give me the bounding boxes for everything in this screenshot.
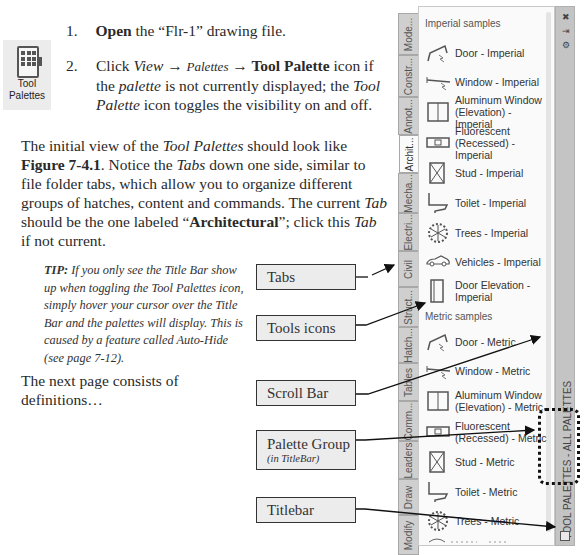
tool-aluminum-window-metric[interactable]: Aluminum Window (Elevation) - Metric (425, 386, 547, 416)
tool-window-metric[interactable]: Window - Metric (425, 356, 547, 386)
tool-door-imperial[interactable]: Door - Imperial (425, 38, 547, 68)
tool-stud-imperial[interactable]: Stud - Imperial (425, 158, 547, 188)
tip-label: TIP: (44, 263, 68, 277)
step-number: 2. (66, 56, 78, 75)
tool-toilet-imperial[interactable]: Toilet - Imperial (425, 188, 547, 218)
text: icon toggles the visibility on and off. (140, 96, 372, 113)
callout-palette-group: Palette Group(in TitleBar) (256, 430, 356, 470)
section-title: Metric samples (425, 311, 492, 322)
callout-tabs: Tabs (256, 264, 356, 290)
window-icon (425, 359, 452, 383)
close-icon[interactable]: ✖ (560, 12, 571, 22)
tool-palettes-label: ToolPalettes (3, 78, 51, 102)
callout-tools-icons: Tools icons (256, 315, 356, 341)
tab-constraints[interactable]: Constr... (398, 55, 419, 97)
tool-door-elevation-imperial[interactable]: Door Elevation - Imperial (425, 276, 547, 306)
trees-icon (425, 509, 452, 533)
tab-tables[interactable]: Tables (398, 363, 419, 401)
door-elevation-icon (425, 279, 452, 303)
tab-structural[interactable]: Struct... (398, 287, 419, 327)
tab-modeling[interactable]: Mode... (398, 13, 419, 55)
aluminum-window-icon (425, 389, 452, 413)
tip-note: TIP: If you only see the Title Bar show … (44, 262, 246, 367)
step-number: 1. (66, 22, 78, 39)
intro-paragraph: The initial view of the Tool Palettes sh… (21, 136, 389, 250)
tab-mechanical[interactable]: Mecha... (398, 173, 419, 213)
tab-command[interactable]: Comm... (398, 401, 419, 441)
tab-draw[interactable]: Draw (398, 479, 419, 515)
step-1: 1. Open the “Flr-1” drawing file. (66, 21, 386, 40)
tool-palettes-button[interactable]: ToolPalettes (3, 40, 51, 110)
tool-stud-metric[interactable]: Stud - Metric (425, 447, 547, 477)
aluminum-window-icon (425, 100, 452, 124)
tool-fluorescent-metric[interactable]: Fluorescent (Recessed) - Metric (425, 417, 547, 447)
tool-door-metric[interactable]: Door - Metric (425, 327, 547, 357)
tool-palettes-icon (17, 46, 39, 78)
palette-group-highlight (538, 408, 580, 485)
arrow: → (163, 57, 186, 74)
tab-architectural[interactable]: Archit... (399, 135, 420, 173)
menu-view: View (133, 57, 163, 74)
step-text: Click View → Palettes → Tool Palette ico… (96, 56, 386, 114)
window-icon (425, 70, 452, 94)
palette-properties-icon[interactable] (560, 531, 570, 541)
toilet-icon (425, 480, 452, 504)
tab-leaders[interactable]: Leaders (398, 441, 419, 479)
callout-scroll-bar: Scroll Bar (256, 380, 356, 406)
vehicles-icon (425, 250, 452, 274)
tool-palette-bold: Tool Palette (251, 57, 329, 74)
tool-trees-metric[interactable]: Trees - Metric (425, 506, 547, 536)
tip-text: If you only see the Title Bar show up wh… (44, 263, 244, 365)
tool-aluminum-window-imperial[interactable]: Aluminum Window (Elevation) - Imperial (425, 97, 547, 127)
properties-icon[interactable]: ⚙ (560, 40, 571, 50)
tool-toilet-metric[interactable]: Toilet - Metric (425, 477, 547, 507)
tab-hatch[interactable]: Hatch... (398, 327, 419, 363)
tab-modify[interactable]: Modify (398, 515, 419, 555)
tool-vehicles-imperial[interactable]: Vehicles - Imperial (425, 247, 547, 277)
door-icon (425, 330, 452, 354)
text: is not currently displayed; the (161, 77, 353, 94)
stud-icon (425, 450, 452, 474)
palette-tabs: Mode... Constr... Annot... Archit... Mec… (398, 13, 419, 537)
tab-electrical[interactable]: Electri... (398, 213, 419, 251)
callout-titlebar: Titlebar (256, 497, 356, 523)
palette-italic: palette (119, 77, 161, 94)
arrow: → (228, 57, 251, 74)
tool-window-imperial[interactable]: Window - Imperial (425, 67, 547, 97)
tab-annotation[interactable]: Annot... (398, 97, 419, 135)
tool-fluorescent-imperial[interactable]: Fluorescent (Recessed) - Imperial (425, 128, 547, 158)
door-icon (425, 41, 452, 65)
menu-palettes: Palettes (187, 59, 229, 74)
section-title: Imperial samples (425, 18, 501, 29)
tool-trees-imperial[interactable]: Trees - Imperial (425, 218, 547, 248)
toilet-icon (425, 191, 452, 215)
next-page-text: The next page consists of definitions… (21, 371, 211, 409)
step-bold: Open (96, 22, 132, 39)
fluorescent-icon (425, 131, 452, 155)
step-2: 2. Click View → Palettes → Tool Palette … (66, 56, 386, 114)
stud-icon (425, 161, 452, 185)
tab-civil[interactable]: Civil (398, 251, 419, 287)
step-text: the “Flr-1” drawing file. (132, 22, 286, 39)
trees-icon (425, 221, 452, 245)
text: Click (96, 57, 133, 74)
fluorescent-icon (425, 420, 452, 444)
auto-hide-icon[interactable]: ⇥ (560, 26, 571, 36)
partial-tool-icon (427, 536, 537, 546)
